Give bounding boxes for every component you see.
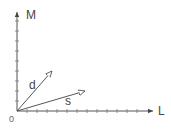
vector-s [17, 91, 85, 111]
y-axis-label: M [26, 9, 36, 21]
x-axis-label: L [158, 105, 165, 117]
vector-s-label: s [65, 95, 71, 107]
origin-label: 0 [9, 115, 14, 124]
vector-d-label: d [29, 79, 36, 91]
